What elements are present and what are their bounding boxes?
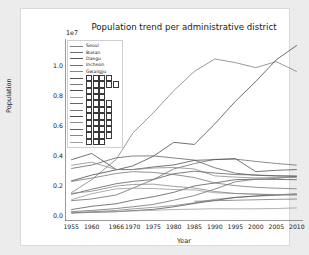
x-tick-label: 2010 — [282, 223, 309, 230]
legend-line-swatch — [70, 116, 83, 117]
series-line — [71, 195, 297, 213]
y-tick-label: 0.4 — [37, 153, 63, 159]
legend-line-swatch — [70, 142, 83, 143]
legend-line-swatch — [70, 135, 83, 136]
legend-item-label: Incheon — [86, 62, 104, 68]
legend-line-swatch — [70, 122, 83, 123]
legend-line-swatch — [70, 78, 83, 79]
legend-item-label: Seoul — [86, 43, 99, 49]
legend-line-swatch — [70, 46, 83, 47]
legend-item-label: Gwangju — [86, 69, 106, 75]
legend-item-label: Daegu — [86, 56, 101, 62]
missing-glyph-box-icon — [106, 132, 112, 138]
missing-glyph-box-icon — [86, 139, 92, 145]
y-tick-label: 0.2 — [37, 183, 63, 189]
legend-item-label: Busan — [86, 50, 100, 56]
legend-item-label — [86, 139, 106, 145]
y-axis-ticklabels: 0.00.20.40.60.81.0 — [35, 39, 63, 221]
matplotlib-figure: Population trend per administrative dist… — [20, 8, 290, 246]
x-axis-ticklabels: 1955196019661970197519801985199019952000… — [65, 223, 303, 235]
chart-page: Population trend per administrative dist… — [0, 0, 309, 255]
y-tick-label: 1.0 — [37, 63, 63, 69]
y-axis-offset-label: 1e7 — [66, 29, 78, 37]
y-tick-label: 0.8 — [37, 93, 63, 99]
legend-line-swatch — [70, 84, 83, 85]
legend-line-swatch — [70, 52, 83, 53]
legend-line-swatch — [70, 90, 83, 91]
chart-legend: SeoulBusanDaeguIncheonGwangju — [67, 40, 123, 148]
legend-item — [70, 139, 119, 145]
legend-line-swatch — [70, 97, 83, 98]
chart-title: Population trend per administrative dist… — [65, 22, 303, 32]
y-axis-label: Population — [5, 78, 13, 113]
missing-glyph-box-icon — [99, 139, 105, 145]
y-tick-label: 0.6 — [37, 123, 63, 129]
missing-glyph-box-icon — [93, 139, 99, 145]
legend-line-swatch — [70, 65, 83, 66]
missing-glyph-box-icon — [106, 81, 112, 87]
legend-line-swatch — [70, 103, 83, 104]
series-line — [71, 208, 297, 212]
legend-line-swatch — [70, 129, 83, 130]
missing-glyph-box-icon — [113, 81, 119, 87]
legend-line-swatch — [70, 58, 83, 59]
legend-line-swatch — [70, 71, 83, 72]
y-tick-label: 0.0 — [37, 213, 63, 219]
legend-line-swatch — [70, 110, 83, 111]
x-axis-label: Year — [65, 237, 303, 245]
